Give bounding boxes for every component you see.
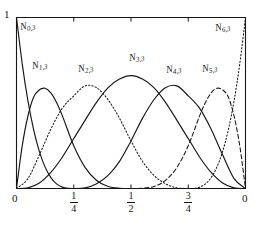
curve-label-n6: N6,3 xyxy=(214,21,230,35)
curve-label-n1: N1,3 xyxy=(31,59,47,73)
plot-frame xyxy=(17,18,246,189)
fraction-numerator: 3 xyxy=(181,191,195,202)
y-axis-top-label: 1 xyxy=(4,9,10,20)
x-tick-label-fraction: 34 xyxy=(181,191,195,214)
fraction-numerator: 1 xyxy=(124,191,138,202)
fraction-numerator: 1 xyxy=(67,191,81,202)
curve-label-n2: N2,3 xyxy=(77,62,93,76)
curve-label-n1-sub: 1,3 xyxy=(38,63,47,72)
basis-curve-n0-3 xyxy=(17,18,74,189)
curve-label-n3-sub: 3,3 xyxy=(135,55,144,64)
fraction-denominator: 2 xyxy=(124,204,138,215)
x-tick-label-fraction: 12 xyxy=(124,191,138,214)
curve-label-n5: N5,3 xyxy=(201,62,217,76)
basis-curve-n2-3 xyxy=(17,85,189,188)
curve-label-n0-sub: 0,3 xyxy=(26,24,35,33)
curve-label-n4-sub: 4,3 xyxy=(172,67,181,76)
curve-label-n5-sub: 5,3 xyxy=(208,66,217,75)
fraction-denominator: 4 xyxy=(181,204,195,215)
x-axis-right-label: 0 xyxy=(242,193,248,204)
basis-curves xyxy=(17,18,246,189)
x-tick-label-fraction: 14 xyxy=(67,191,81,214)
x-axis-left-label: 0 xyxy=(12,193,18,204)
curve-label-n2-sub: 2,3 xyxy=(84,66,93,75)
curve-label-n3: N3,3 xyxy=(128,51,144,65)
fraction-denominator: 4 xyxy=(67,204,81,215)
basis-curve-n6-3 xyxy=(188,18,245,189)
basis-curve-n4-3 xyxy=(74,85,246,188)
frame-border xyxy=(17,18,246,189)
curve-label-n4: N4,3 xyxy=(165,63,181,77)
curve-label-n0: N0,3 xyxy=(19,20,35,34)
bspline-basis-figure: N0,3 N1,3 N2,3 N3,3 N4,3 N5,3 N6,3 1 0 0… xyxy=(0,0,262,225)
axis-tick-marks xyxy=(74,18,189,189)
curve-label-n6-sub: 6,3 xyxy=(221,25,230,34)
